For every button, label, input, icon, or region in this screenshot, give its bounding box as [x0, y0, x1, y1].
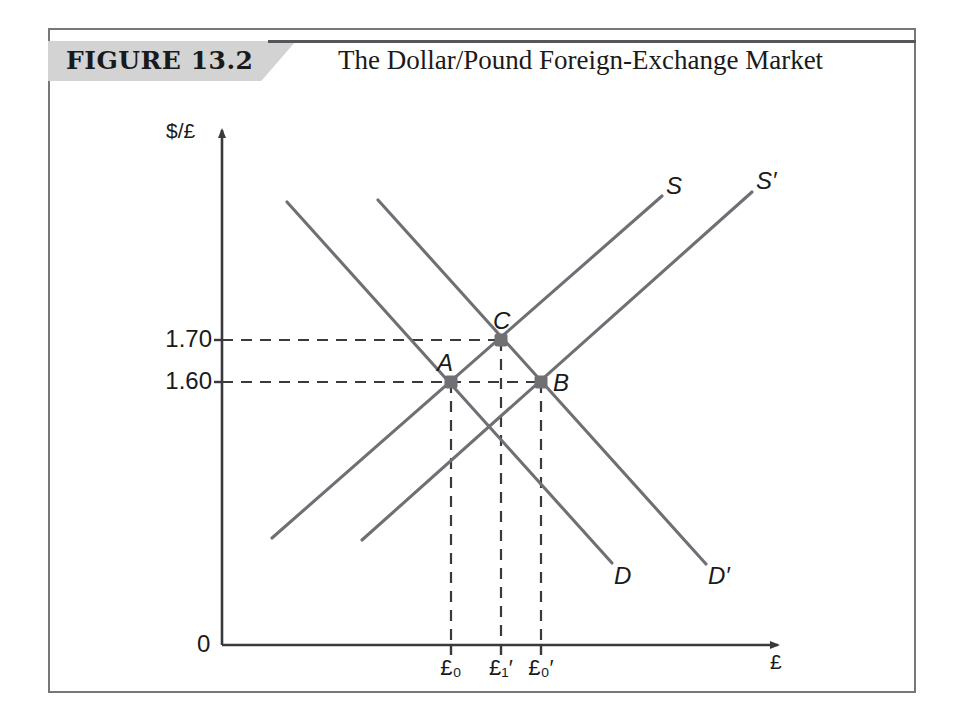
y-tick-label-1-60: 1.60 [156, 367, 212, 395]
y-axis-label: $/£ [166, 119, 195, 143]
x-tick-label-pounds-0-prime: £₀′ [521, 655, 561, 681]
origin-label: 0 [197, 630, 210, 658]
figure-title: The Dollar/Pound Foreign-Exchange Market [338, 45, 823, 76]
curve-label-D: D [614, 562, 631, 590]
y-tick-label-1-70: 1.70 [156, 325, 212, 353]
point-label-B: B [553, 369, 569, 397]
curve-label-S-prime: S′ [756, 167, 777, 195]
x-tick-label-pounds-0: £₀ [431, 655, 471, 681]
point-label-A: A [437, 349, 453, 377]
figure-root: FIGURE 13.2 The Dollar/Pound Foreign-Exc… [0, 0, 958, 728]
x-axis-label: £ [770, 650, 782, 674]
title-divider-rule [268, 40, 916, 43]
x-tick-label-pounds-1-prime: £₁′ [481, 655, 521, 681]
curve-label-D-prime: D′ [708, 562, 730, 590]
point-label-C: C [493, 307, 510, 335]
curve-label-S: S [666, 172, 682, 200]
figure-number-label: FIGURE 13.2 [66, 46, 254, 75]
